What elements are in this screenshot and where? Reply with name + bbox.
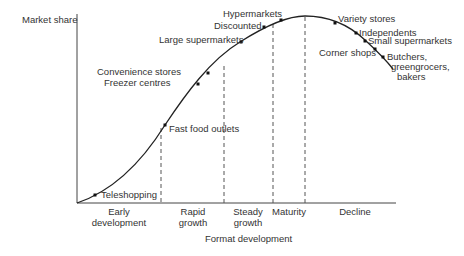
label-small-supermarkets: Small supermarkets [368,35,452,46]
stage-label-decline: Decline [325,206,385,217]
point-freezer [197,83,200,86]
point-small-supermarkets [364,40,367,43]
point-discounted [263,26,266,29]
point-independents [355,32,358,35]
point-butchers [382,56,385,59]
label-discounted: Discounted [214,20,262,31]
label-fast-food: Fast food outlets [169,123,239,134]
stage-label-maturity: Maturity [271,206,307,217]
data-points [94,19,385,197]
point-convenience [207,72,210,75]
point-teleshopping [94,194,97,197]
stage-label-steady: Steady growth [225,206,271,228]
label-convenience: Convenience stores [97,66,181,77]
y-axis-label: Market share [22,14,77,25]
label-butchers: Butchers, greengrocers, bakers [387,52,450,82]
point-fast-food [164,124,167,127]
label-large-supermarkets: Large supermarkets [159,34,243,45]
x-axis-label: Format development [205,233,292,244]
stage-label-early: Early development [88,206,150,228]
label-hypermarkets: Hypermarkets [223,8,282,19]
label-teleshopping: Teleshopping [101,189,157,200]
point-variety [334,22,337,25]
stage-label-rapid: Rapid growth [168,206,218,228]
label-freezer: Freezer centres [104,77,171,88]
label-variety: Variety stores [338,13,395,24]
label-corner-shops: Corner shops [319,47,376,58]
